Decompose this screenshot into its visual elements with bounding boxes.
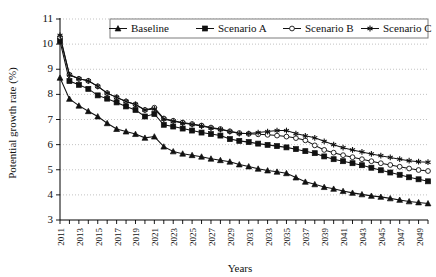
- x-tick-label: 2039: [320, 228, 330, 247]
- data-point: [275, 133, 280, 138]
- x-tick-label: 2049: [415, 228, 425, 247]
- data-point: [331, 142, 336, 148]
- x-tick-label: 2035: [282, 228, 292, 247]
- data-point: [86, 86, 91, 91]
- data-point: [322, 148, 327, 153]
- data-point: [407, 166, 412, 171]
- data-point: [341, 159, 346, 164]
- data-point: [76, 82, 81, 87]
- y-tick-label: 8: [48, 87, 54, 99]
- data-point: [378, 168, 383, 173]
- data-point: [218, 133, 223, 138]
- data-point: [67, 79, 72, 84]
- data-point: [350, 161, 355, 166]
- x-tick-label: 2041: [339, 228, 349, 246]
- data-point: [227, 137, 232, 142]
- data-point: [331, 157, 336, 162]
- data-point: [302, 179, 308, 184]
- data-point: [312, 143, 317, 148]
- data-point: [114, 100, 119, 105]
- y-tick-label: 5: [48, 163, 54, 175]
- x-tick-label: 2013: [75, 228, 85, 247]
- data-point: [180, 126, 185, 131]
- data-point: [322, 154, 327, 159]
- data-point: [369, 165, 374, 170]
- x-axis-ticks: 2011201320152017201920212023202520272029…: [56, 220, 428, 246]
- data-point: [293, 175, 299, 180]
- x-tick-label: 2031: [245, 228, 255, 246]
- data-point: [171, 124, 176, 129]
- data-point: [331, 150, 336, 155]
- data-point: [378, 161, 383, 166]
- data-point: [426, 169, 431, 174]
- data-point: [246, 140, 251, 145]
- x-tick-label: 2017: [113, 228, 123, 247]
- data-point: [359, 163, 364, 168]
- legend-label: Scenario A: [218, 22, 267, 34]
- x-tick-label: 2015: [94, 228, 104, 247]
- y-axis-ticks: 34567891011: [42, 12, 60, 225]
- data-point: [152, 111, 157, 116]
- x-axis-title: Years: [228, 262, 253, 274]
- data-point: [303, 149, 308, 154]
- data-point: [360, 157, 365, 162]
- y-tick-label: 6: [48, 138, 54, 150]
- data-point: [208, 132, 213, 137]
- legend-marker-square-icon: [203, 26, 208, 31]
- data-point: [190, 128, 195, 133]
- x-tick-label: 2029: [226, 228, 236, 247]
- data-point: [170, 149, 176, 154]
- data-point: [284, 134, 289, 139]
- data-point: [284, 145, 289, 150]
- data-point: [369, 159, 374, 164]
- data-point: [397, 172, 402, 177]
- data-point: [57, 75, 63, 80]
- data-point: [426, 179, 431, 184]
- y-tick-label: 10: [42, 37, 54, 49]
- data-point: [95, 93, 100, 98]
- data-point: [256, 141, 261, 146]
- y-tick-label: 9: [48, 62, 54, 74]
- data-series-group: [57, 32, 431, 205]
- y-tick-label: 3: [48, 213, 54, 225]
- x-tick-label: 2047: [396, 228, 406, 247]
- data-point: [161, 122, 166, 127]
- data-point: [322, 138, 327, 144]
- data-point: [388, 163, 393, 168]
- x-tick-label: 2027: [207, 228, 217, 247]
- x-tick-label: 2019: [131, 228, 141, 247]
- data-point: [407, 175, 412, 180]
- series-scenario-c: [57, 32, 430, 165]
- data-point: [397, 164, 402, 169]
- chart-container: 34567891011 2011201320152017201920212023…: [0, 0, 436, 277]
- data-point: [124, 104, 129, 109]
- legend-marker-circle-icon: [290, 26, 295, 31]
- data-point: [312, 151, 317, 156]
- data-point: [265, 142, 270, 147]
- data-point: [416, 177, 421, 182]
- y-tick-label: 7: [48, 113, 54, 125]
- potential-growth-rate-line-chart: 34567891011 2011201320152017201920212023…: [0, 0, 436, 277]
- data-point: [275, 144, 280, 149]
- x-tick-label: 2043: [358, 228, 368, 247]
- legend-label: Scenario C: [383, 22, 432, 34]
- data-point: [133, 107, 138, 112]
- data-point: [350, 155, 355, 160]
- data-point: [114, 126, 120, 131]
- x-tick-label: 2023: [169, 228, 179, 247]
- x-tick-label: 2033: [264, 228, 274, 247]
- x-tick-label: 2011: [56, 228, 66, 246]
- data-point: [341, 153, 346, 158]
- data-point: [95, 114, 101, 119]
- series-scenario-b: [58, 35, 431, 174]
- x-tick-label: 2037: [301, 228, 311, 247]
- data-point: [142, 114, 147, 119]
- legend-label: Baseline: [131, 22, 169, 34]
- data-point: [388, 170, 393, 175]
- data-point: [293, 147, 298, 152]
- data-point: [237, 138, 242, 143]
- data-point: [199, 130, 204, 135]
- y-tick-label: 4: [48, 188, 54, 200]
- x-tick-label: 2025: [188, 228, 198, 247]
- x-tick-label: 2045: [377, 228, 387, 247]
